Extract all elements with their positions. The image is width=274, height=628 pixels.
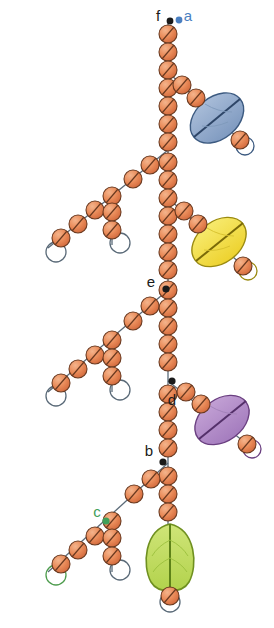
bead — [159, 207, 177, 225]
bead — [103, 187, 121, 205]
label-b: b — [145, 442, 153, 459]
bead — [124, 170, 142, 188]
bead — [159, 43, 177, 61]
bead — [159, 115, 177, 133]
marker-dot-c — [102, 517, 109, 524]
bead — [86, 527, 104, 545]
bead — [125, 485, 143, 503]
bead — [189, 215, 207, 233]
bead — [159, 353, 177, 371]
bead — [159, 261, 177, 279]
bead — [142, 470, 160, 488]
bead — [159, 153, 177, 171]
bead — [159, 189, 177, 207]
marker-dot-b — [159, 458, 166, 465]
stub-beads-lower — [103, 529, 121, 565]
bead — [141, 297, 159, 315]
marker-dot-a — [176, 17, 183, 24]
label-c: c — [93, 503, 101, 520]
bead — [103, 367, 121, 385]
bead — [69, 360, 87, 378]
bead — [103, 203, 121, 221]
bead — [234, 257, 252, 275]
bead — [159, 503, 177, 521]
bead — [159, 133, 177, 151]
bead — [187, 89, 205, 107]
bead — [159, 61, 177, 79]
label-f: f — [156, 7, 161, 24]
bead — [103, 547, 121, 565]
main-stem-beads — [159, 25, 179, 605]
label-e: e — [147, 273, 155, 290]
bead — [159, 317, 177, 335]
bead — [86, 201, 104, 219]
marker-dot-e — [162, 285, 169, 292]
bead — [159, 439, 177, 457]
bead — [159, 299, 177, 317]
bead — [159, 243, 177, 261]
bead — [159, 25, 177, 43]
stub-beads-middle — [103, 349, 121, 385]
bead — [141, 156, 159, 174]
bead — [69, 215, 87, 233]
stub-beads-upper — [103, 203, 121, 239]
bead — [159, 97, 177, 115]
bead — [69, 541, 87, 559]
bead — [124, 312, 142, 330]
bead — [159, 485, 177, 503]
bead — [161, 587, 179, 605]
bead — [175, 202, 193, 220]
bead — [159, 421, 177, 439]
bead — [159, 335, 177, 353]
bead — [86, 346, 104, 364]
bead — [231, 131, 249, 149]
marker-dot-d — [168, 377, 175, 384]
label-d: d — [168, 391, 176, 408]
bead — [159, 171, 177, 189]
bead — [192, 395, 210, 413]
label-a: a — [184, 7, 193, 24]
bead — [159, 467, 177, 485]
bead — [103, 221, 121, 239]
bead — [52, 229, 70, 247]
bead — [177, 383, 195, 401]
bead — [52, 555, 70, 573]
bead — [238, 435, 256, 453]
bead — [52, 374, 70, 392]
bead — [103, 349, 121, 367]
figure-root: f a e d b c — [0, 0, 274, 628]
bead — [173, 76, 191, 94]
bead — [103, 529, 121, 547]
bead — [159, 225, 177, 243]
diagram-canvas: f a e d b c — [0, 0, 274, 628]
pod-green[interactable] — [146, 524, 194, 592]
bead — [103, 331, 121, 349]
marker-dot-f — [167, 18, 174, 25]
